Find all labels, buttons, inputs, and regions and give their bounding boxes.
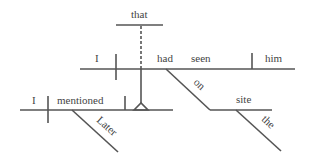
word-on: on	[192, 76, 209, 93]
word-mentioned: mentioned	[57, 94, 104, 106]
preposition-line	[166, 69, 210, 110]
pedestal-icon	[134, 103, 148, 110]
word-site: site	[236, 93, 251, 105]
word-the: the	[260, 113, 278, 131]
word-had: had	[157, 52, 173, 64]
word-i-2: I	[95, 52, 99, 64]
word-that: that	[131, 8, 148, 20]
article-line	[236, 110, 281, 151]
word-him: him	[265, 52, 283, 64]
word-seen: seen	[191, 52, 211, 64]
word-i-1: I	[32, 94, 36, 106]
sentence-diagram: that I had seen him on site the I mentio…	[0, 0, 309, 163]
